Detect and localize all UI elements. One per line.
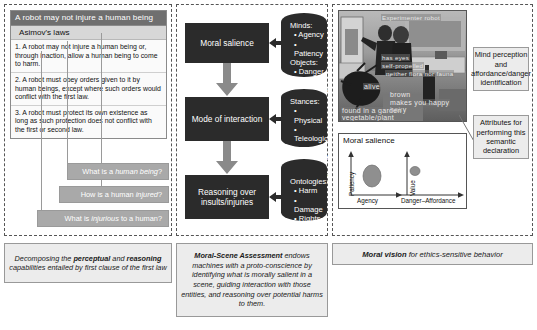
scene-tag: has eyes	[381, 54, 410, 61]
side-box-mind-perception: Mind perception and affordance/danger id…	[473, 47, 529, 91]
scene-tag: neither flora nor fauna	[385, 70, 454, 77]
left-panel: A robot may not injure a human being Asi…	[4, 4, 172, 236]
stage-moral-salience: Moral salience	[185, 23, 269, 63]
question-human-injured: How is a human injured?	[59, 186, 169, 203]
store-ontologies: Ontologies: • Harm • Damage • Rights	[281, 159, 327, 221]
scene-tag: vegetable/plant	[341, 114, 395, 121]
law-item: 1. A robot may not injure a human being …	[11, 40, 166, 73]
store-minds-objects: Minds: • Agency • Patiency Objects: • Da…	[281, 13, 327, 77]
moral-salience-plots: Moral salience Patiency Agency Value Dan…	[338, 133, 467, 209]
stage-mode-of-interaction: Mode of interaction	[185, 97, 269, 141]
question-human-being: What is a human being?	[67, 163, 169, 180]
scene-tag: makes you happy	[389, 99, 450, 106]
middle-panel: Moral salience Mode of interaction Reaso…	[176, 4, 328, 236]
right-panel: Experimenter robot has eyes self-propell…	[332, 4, 533, 236]
law-item: 3. A robot must protect its own existenc…	[11, 106, 166, 138]
figure-root: A robot may not injure a human being Asi…	[0, 0, 537, 330]
plot1-xlabel: Agency	[357, 197, 378, 204]
plot2-ylabel: Value	[409, 180, 416, 196]
arrow-down-icon	[215, 141, 239, 175]
annotated-scene-photo: Experimenter robot has eyes self-propell…	[338, 10, 467, 122]
scene-tag: Experimenter robot	[381, 14, 441, 21]
moral-salience-title: Moral salience	[343, 136, 395, 145]
asimov-laws-box: A robot may not injure a human being Asi…	[10, 10, 167, 139]
scene-tag: brown	[389, 91, 412, 98]
laws-subtitle: Asimov's laws	[11, 26, 166, 40]
right-caption: Moral vision for ethics-sensitive behavi…	[332, 243, 533, 265]
plot1-ylabel: Patiency	[348, 172, 355, 196]
scene-tag: found in a garden	[341, 107, 403, 114]
law-header: A robot may not injure a human being	[11, 11, 166, 26]
side-box-attributes: Attributes for performing this semantic …	[473, 115, 529, 159]
left-caption: Decomposing the perceptual and reasoning…	[4, 243, 172, 283]
scene-tag: alive	[363, 83, 381, 90]
connector-line	[67, 41, 68, 167]
connector-line	[41, 51, 42, 215]
question-injurious: What is injurious to a human?	[37, 210, 169, 227]
arrow-down-icon	[215, 63, 239, 97]
store-stances: Stances: • Physical • Teleological • Int…	[281, 89, 327, 147]
law-item: 2. A robot must obey orders given to it …	[11, 73, 166, 106]
scene-tag: self-propelled	[381, 62, 424, 69]
plot-value-danger-affordance	[393, 149, 465, 201]
plot2-xlabel: Danger–Affordance	[401, 197, 456, 204]
middle-caption: Moral-Scene Assessment endows machines w…	[176, 243, 328, 317]
stage-reasoning-insults-injuries: Reasoning over insults/injuries	[185, 175, 269, 219]
